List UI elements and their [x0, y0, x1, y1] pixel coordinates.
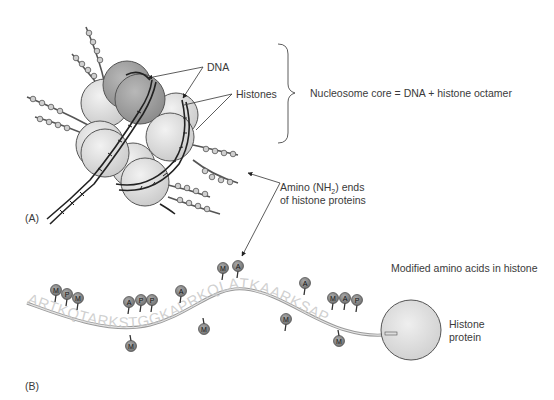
dna-arrow-2 — [183, 67, 203, 98]
svg-text:A: A — [303, 280, 308, 287]
amino-ends-label-line2: of histone proteins — [280, 194, 366, 206]
diagram-canvas: ARTKQTARKSTGGKAPRKQLATKAARKSAP MPMAPPMAM… — [0, 0, 554, 400]
modification-marker-m: M — [281, 314, 292, 332]
svg-text:M: M — [128, 343, 134, 350]
svg-text:M: M — [75, 295, 81, 302]
modification-marker-a: A — [340, 293, 351, 311]
modification-marker-m: M — [334, 330, 345, 347]
svg-text:M: M — [53, 287, 59, 294]
svg-text:M: M — [336, 338, 342, 345]
svg-text:M: M — [330, 295, 336, 302]
svg-text:P: P — [355, 297, 360, 304]
svg-text:P: P — [150, 297, 155, 304]
panel-a-label: (A) — [25, 212, 39, 224]
histone-sphere — [146, 113, 194, 161]
histones-line-2 — [196, 94, 232, 130]
nucleosome-core-label: Nucleosome core = DNA + histone octamer — [310, 87, 512, 99]
modification-marker-p: P — [136, 295, 147, 313]
svg-text:A: A — [127, 299, 132, 306]
amino-ends-arrow-up — [248, 173, 280, 183]
svg-text:M: M — [283, 316, 289, 323]
svg-text:A: A — [179, 288, 184, 295]
modification-marker-m: M — [126, 335, 137, 352]
modification-marker-a: A — [300, 278, 311, 296]
histone-protein-sphere — [381, 300, 441, 360]
modification-marker-m: M — [199, 318, 210, 335]
histone-protein-label-line2: protein — [449, 331, 481, 343]
modification-marker-a: A — [124, 297, 135, 315]
svg-text:M: M — [220, 265, 226, 272]
modification-marker-m: M — [218, 263, 229, 281]
panel-b-label: (B) — [25, 380, 39, 392]
svg-text:P: P — [65, 291, 70, 298]
svg-text:A: A — [343, 295, 348, 302]
dna-arrow-1 — [148, 67, 203, 78]
svg-text:A: A — [236, 263, 241, 270]
modification-marker-p: P — [352, 295, 363, 313]
amino-ends-arrow-down — [242, 183, 280, 256]
histone-protein-label-line1: Histone — [449, 318, 485, 330]
bracket — [278, 44, 295, 143]
modification-marker-m: M — [328, 293, 339, 311]
dna-label: DNA — [207, 61, 229, 73]
svg-text:M: M — [201, 326, 207, 333]
svg-text:P: P — [139, 297, 144, 304]
modified-amino-acids-title: Modified amino acids in histone — [391, 262, 538, 274]
histones-label: Histones — [236, 88, 277, 100]
